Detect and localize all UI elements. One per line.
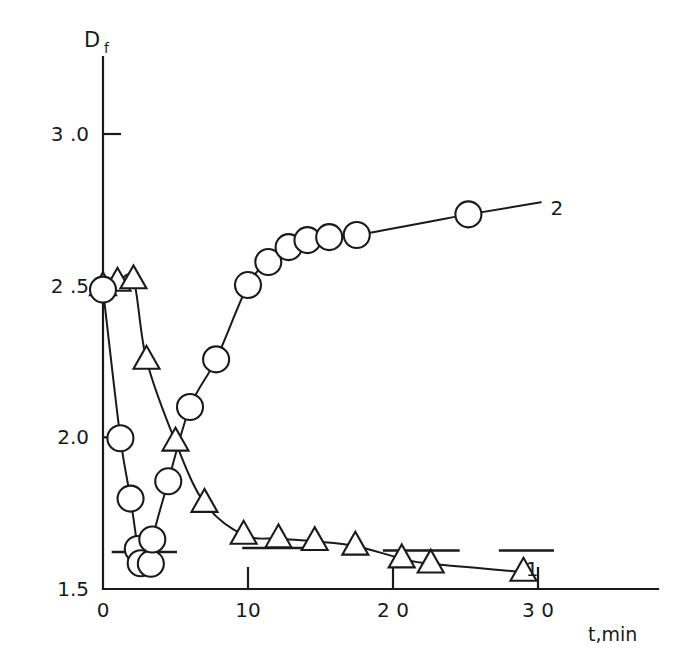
series-1-line (103, 274, 524, 572)
x-tick-label-1: 10 (235, 598, 260, 622)
y-axis-tick-labels: 1.52.02 .53 .0 (51, 122, 89, 601)
series-2-marker-9 (203, 346, 229, 372)
x-tick-label-3: 3 0 (522, 598, 554, 622)
series-1-marker-5 (192, 489, 218, 512)
series-2-marker-6 (139, 527, 165, 553)
x-axis-title: t,min (588, 623, 637, 645)
y-tick-label-0: 1.5 (57, 577, 89, 601)
y-axis-title: D f (84, 28, 110, 56)
series-2-line (103, 214, 468, 566)
curve-2-label: 2 (550, 196, 563, 220)
series-2-marker-2 (118, 486, 144, 512)
y-axis-title-subscript: f (104, 40, 110, 56)
y-axis-title-main: D (84, 28, 100, 52)
reference-line-group (112, 548, 554, 552)
y-tick-label-1: 2.0 (57, 425, 89, 449)
series-1-marker-4 (163, 428, 189, 451)
series-1-marker-6 (231, 521, 257, 544)
y-tick-label-3: 3 .0 (51, 122, 89, 146)
series-1-marker-8 (302, 527, 328, 550)
series-1-marker-7 (265, 524, 291, 547)
series-2-marker-0 (90, 277, 116, 303)
series-2-marker-1 (107, 425, 133, 451)
series-2-marker-10 (235, 272, 261, 298)
series-line-group (103, 202, 541, 572)
chart-figure: 1.52.02 .53 .0 0102 03 0 12 D f t,min (0, 0, 699, 664)
x-tick-label-0: 0 (97, 598, 110, 622)
series-2-marker-5 (138, 551, 164, 577)
series-2-marker-14 (316, 224, 342, 250)
plot-canvas: 1.52.02 .53 .0 0102 03 0 12 D f t,min (0, 0, 699, 664)
axes-group (103, 57, 658, 589)
series-1-marker-9 (342, 532, 368, 555)
y-tick-label-2: 2 .5 (51, 274, 89, 298)
series-1-marker-3 (134, 346, 160, 369)
series-2-marker-15 (344, 222, 370, 248)
series-2-marker-16 (455, 201, 481, 227)
x-tick-label-2: 2 0 (377, 598, 409, 622)
curve-1-label: 1 (526, 557, 539, 581)
series-2-marker-8 (177, 394, 203, 420)
x-axis-tick-labels: 0102 03 0 (97, 598, 554, 622)
series-1-marker-11 (418, 550, 444, 573)
curve-annotation-group: 12 (526, 196, 563, 581)
series-2-marker-7 (155, 468, 181, 494)
